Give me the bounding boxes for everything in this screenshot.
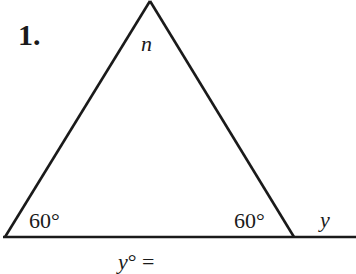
apex-angle-label: n (141, 33, 152, 55)
answer-variable: y (118, 249, 128, 274)
problem-number: 1. (18, 20, 41, 50)
exterior-angle-label: y (320, 209, 330, 231)
right-angle-label: 60° (234, 210, 265, 232)
triangle-right-side (150, 1, 294, 237)
answer-prompt: y° = (118, 251, 154, 273)
left-angle-label: 60° (29, 210, 60, 232)
answer-suffix: ° = (128, 249, 155, 274)
